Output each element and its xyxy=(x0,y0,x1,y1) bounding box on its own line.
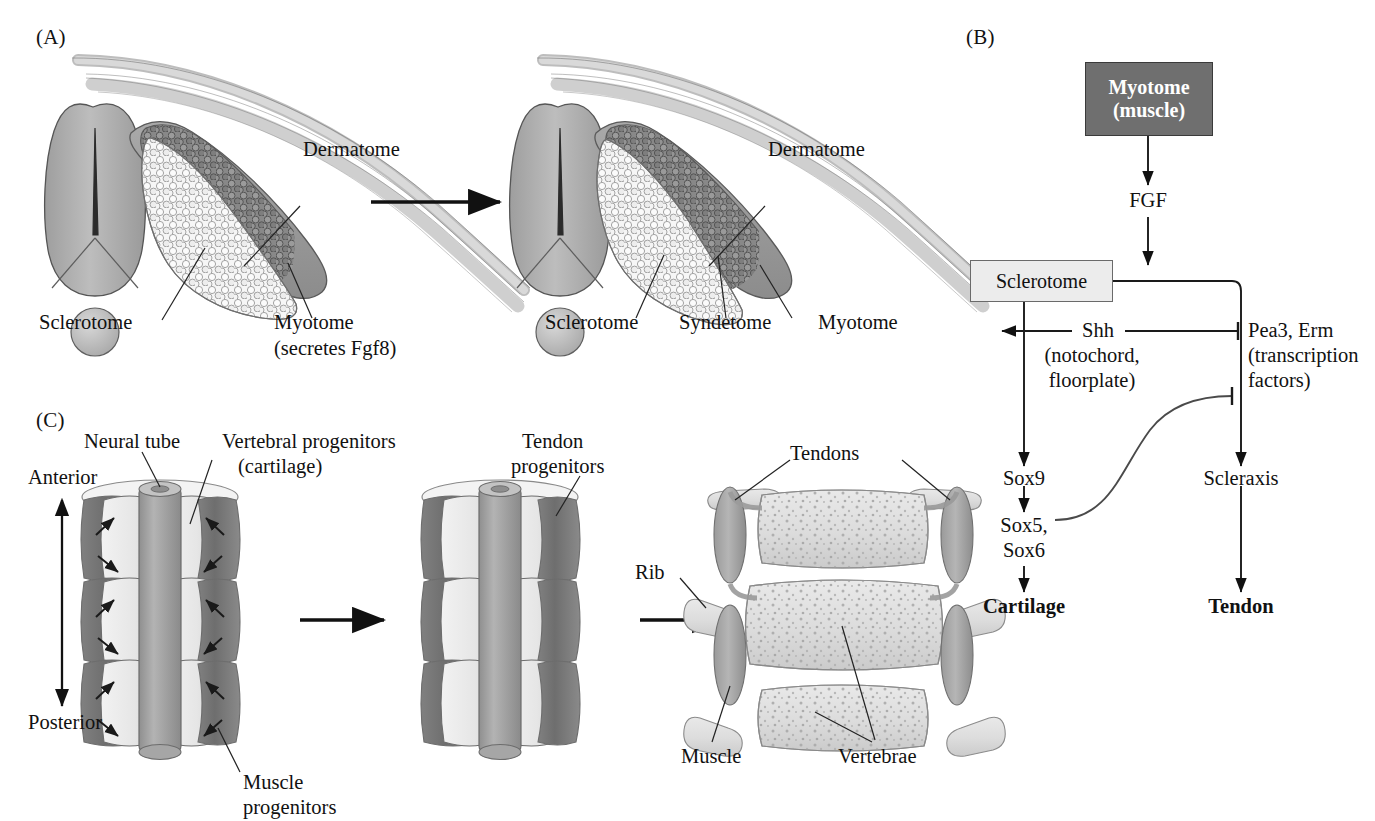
label-dermatome-a1: Dermatome xyxy=(303,137,400,162)
node-fgf: FGF xyxy=(1129,188,1167,213)
label-muscle-progenitors-l1: Muscle xyxy=(243,770,303,795)
node-myotome: Myotome (muscle) xyxy=(1085,62,1213,136)
label-vertebrae: Vertebrae xyxy=(838,744,917,769)
panel-letter-c: (C) xyxy=(36,408,65,433)
label-vertebral-progenitors-l2: (cartilage) xyxy=(238,454,322,479)
label-sclerotome-a1: Sclerotome xyxy=(39,310,132,335)
panel-c-stage3-artwork xyxy=(680,460,1005,756)
curve-sox56-inhibit xyxy=(1055,396,1232,520)
node-shh-line2: (notochord, xyxy=(1044,343,1139,368)
node-myotome-line2: (muscle) xyxy=(1108,99,1189,122)
label-myotome-a2: Myotome xyxy=(818,310,898,335)
label-syndetome-a2: Syndetome xyxy=(679,310,771,335)
panel-letter-a: (A) xyxy=(36,25,66,50)
label-posterior: Posterior xyxy=(28,710,102,735)
label-anterior: Anterior xyxy=(28,465,97,490)
label-dermatome-a2: Dermatome xyxy=(768,137,865,162)
label-rib: Rib xyxy=(635,560,665,585)
label-tendons: Tendons xyxy=(790,441,859,466)
panel-c-stage2-artwork xyxy=(421,476,724,760)
node-pea3-line2: (transcription xyxy=(1248,343,1358,368)
node-sox56-line2: Sox6 xyxy=(1003,538,1045,563)
node-scleraxis: Scleraxis xyxy=(1203,466,1278,491)
node-sclerotome: Sclerotome xyxy=(970,260,1113,302)
label-sclerotome-a2: Sclerotome xyxy=(545,310,638,335)
neural-tube-cylinder-c2 xyxy=(479,487,521,752)
label-tendon-progenitors-l2: progenitors xyxy=(511,454,604,479)
node-tendon: Tendon xyxy=(1208,594,1273,619)
node-pea3-line1: Pea3, Erm xyxy=(1248,318,1333,343)
label-tendon-progenitors-l1: Tendon xyxy=(522,429,583,454)
node-cartilage: Cartilage xyxy=(983,594,1065,619)
node-pea3-line3: factors) xyxy=(1248,368,1311,393)
label-vertebral-progenitors-l1: Vertebral progenitors xyxy=(222,429,396,454)
node-sox9: Sox9 xyxy=(1003,466,1045,491)
node-sox56-line1: Sox5, xyxy=(1000,513,1047,538)
node-shh-line3: floorplate) xyxy=(1049,368,1136,393)
panel-c-stage1-artwork xyxy=(62,452,384,772)
label-muscle: Muscle xyxy=(681,744,741,769)
neural-tube-cylinder-c1 xyxy=(139,487,181,752)
figure-canvas: (A) (B) (C) Dermatome Sclerotome Myotome… xyxy=(0,0,1375,821)
label-myotome-sub-a1: (secretes Fgf8) xyxy=(274,336,396,361)
panel-letter-b: (B) xyxy=(966,25,995,50)
label-muscle-progenitors-l2: progenitors xyxy=(243,795,336,820)
label-myotome-a1: Myotome xyxy=(274,310,354,335)
label-neural-tube: Neural tube xyxy=(84,429,180,454)
node-shh-line1: Shh xyxy=(1082,318,1114,343)
node-myotome-line1: Myotome xyxy=(1108,76,1189,99)
node-sclerotome-label: Sclerotome xyxy=(996,270,1087,293)
